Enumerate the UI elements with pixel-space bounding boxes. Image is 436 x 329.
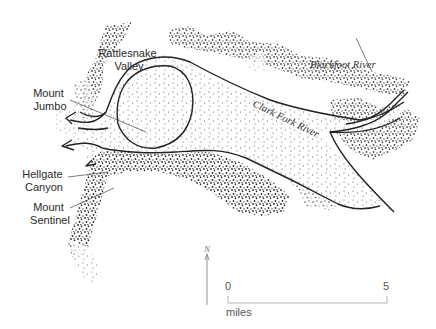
north-arrow: N: [203, 244, 211, 305]
scale-unit: miles: [226, 306, 252, 318]
label-mount-sentinel: Mount Sentinel: [30, 201, 70, 226]
north-label: N: [203, 244, 211, 254]
scale-end: 5: [383, 280, 389, 292]
scale-start: 0: [225, 280, 231, 292]
mount-sentinel-area: [68, 148, 290, 260]
valley-map: Rattlesnake Valley Mount Jumbo Hellgate …: [0, 0, 436, 329]
label-blackfoot-river: Blackfoot River: [310, 59, 377, 70]
label-mount-jumbo: Mount Jumbo: [33, 87, 67, 112]
scale-bar: 0 5 miles: [225, 280, 389, 318]
label-hellgate-canyon: Hellgate Canyon: [22, 168, 65, 193]
